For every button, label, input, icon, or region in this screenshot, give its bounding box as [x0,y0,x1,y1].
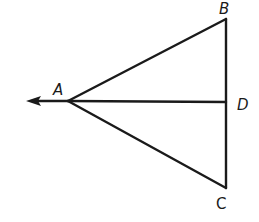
label-point-b: B [219,0,229,18]
segment-ab [68,19,226,101]
label-point-a: A [52,81,63,99]
segment-ac [68,101,226,188]
diagram-svg: B A D C [0,0,259,222]
label-point-c: C [216,195,226,213]
label-point-d: D [237,96,249,114]
segment-ad [68,101,226,102]
geometry-diagram: B A D C [0,0,259,222]
